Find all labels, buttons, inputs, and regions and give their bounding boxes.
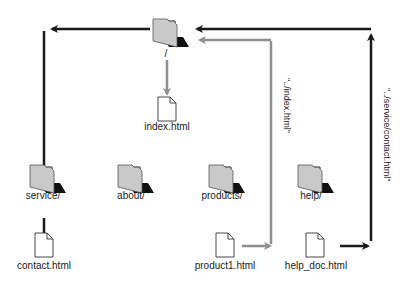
file-icon-product1 (216, 233, 234, 257)
node-label-help: help/ (300, 190, 322, 201)
node-label-index: index.html (144, 121, 190, 132)
folder-icon-root (153, 19, 189, 47)
file-icon-help-doc (306, 233, 324, 257)
folder-icon-service (30, 165, 66, 193)
folder-icon-about (118, 165, 154, 193)
edge-label-contact-path: "../service/contact.html" (382, 88, 392, 181)
file-icon-index (158, 97, 176, 121)
edge-root-to-service (44, 29, 150, 185)
node-label-contact: contact.html (17, 260, 71, 271)
folder-icon-help (298, 165, 334, 193)
file-icon-contact (35, 233, 53, 257)
node-label-product1: product1.html (195, 260, 256, 271)
node-label-help-doc: help_doc.html (285, 260, 347, 271)
edge-product1-to-root (200, 40, 271, 246)
folder-icon-products (209, 165, 245, 193)
site-diagram (0, 0, 405, 292)
edge-label-index-path: "../index.html" (282, 78, 292, 133)
node-label-service: service/ (26, 190, 60, 201)
node-label-root: / (165, 48, 168, 59)
node-label-products: products/ (201, 190, 242, 201)
edge-helpdoc-to-root (197, 29, 371, 246)
node-label-about: about/ (117, 190, 145, 201)
